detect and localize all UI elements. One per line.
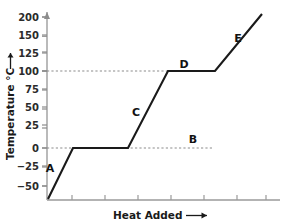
chart-figure: 200 150 125 100 75 50 25 0 −25 −50 A B C… xyxy=(0,0,288,224)
segment-label-d: D xyxy=(179,58,188,71)
y-axis-ticks xyxy=(42,17,47,186)
y-tick-label-neg50: −50 xyxy=(17,181,39,192)
y-tick-label-neg25: −25 xyxy=(17,161,39,172)
y-axis-title-arrow-icon xyxy=(8,53,14,58)
y-tick-label-50: 50 xyxy=(25,102,39,113)
segment-label-c: C xyxy=(132,106,140,119)
heating-curve-chart: 200 150 125 100 75 50 25 0 −25 −50 A B C… xyxy=(0,0,288,224)
heating-curve-line xyxy=(48,14,262,199)
segment-label-a: A xyxy=(46,162,55,175)
y-tick-label-150: 150 xyxy=(18,30,39,41)
y-tick-label-75: 75 xyxy=(25,84,39,95)
y-tick-label-200: 200 xyxy=(18,12,39,23)
y-tick-label-25: 25 xyxy=(25,120,39,131)
y-tick-label-100: 100 xyxy=(18,66,39,77)
segment-label-e: E xyxy=(234,32,242,45)
y-axis-arrow-icon xyxy=(44,12,50,19)
y-tick-label-125: 125 xyxy=(18,48,39,59)
y-axis-title-group: Temperature °C xyxy=(4,53,16,160)
y-axis-ticks-grid xyxy=(42,17,47,186)
y-tick-label-0: 0 xyxy=(32,143,39,154)
x-axis-title: Heat Added xyxy=(113,209,182,221)
x-axis-ticks xyxy=(72,195,266,200)
x-axis-title-arrow-icon xyxy=(202,213,208,219)
y-axis-title: Temperature °C xyxy=(4,68,16,160)
segment-label-b: B xyxy=(189,133,197,146)
